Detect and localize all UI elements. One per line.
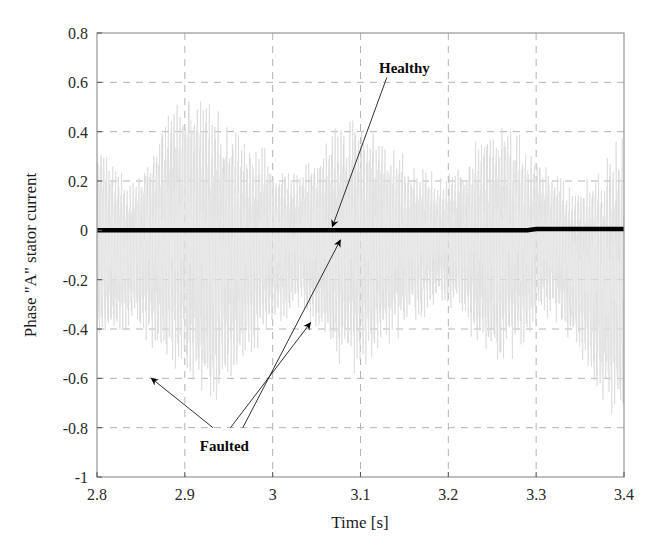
- y-tick-label: 0: [80, 222, 88, 239]
- x-tick-label: 3.3: [526, 486, 546, 503]
- x-tick-label: 3.1: [351, 486, 371, 503]
- x-tick-label: 3: [269, 486, 277, 503]
- x-tick-label: 2.9: [175, 486, 195, 503]
- y-tick-label: -0.4: [63, 321, 88, 338]
- y-tick-label: 0.2: [68, 173, 88, 190]
- annotation-label-faulted: Faulted: [200, 438, 250, 454]
- x-axis-label: Time [s]: [331, 513, 388, 532]
- x-tick-label: 3.4: [614, 486, 634, 503]
- y-tick-label: -0.2: [63, 272, 88, 289]
- annotation-label-healthy: Healthy: [379, 60, 430, 76]
- y-tick-label: -1: [75, 469, 88, 486]
- y-tick-label: 0.4: [68, 124, 88, 141]
- stator-current-plot: 2.82.933.13.23.33.4 0.80.60.40.20-0.2-0.…: [0, 0, 659, 550]
- x-tick-label: 2.8: [87, 486, 107, 503]
- y-tick-label: 0.8: [68, 25, 88, 42]
- y-tick-label: -0.6: [63, 370, 88, 387]
- y-tick-label: -0.8: [63, 420, 88, 437]
- chart-figure: 2.82.933.13.23.33.4 0.80.60.40.20-0.2-0.…: [0, 0, 659, 550]
- y-tick-label: 0.6: [68, 74, 88, 91]
- x-tick-label: 3.2: [438, 486, 458, 503]
- series-healthy: [97, 229, 624, 230]
- y-axis-label: Phase "A" stator current: [21, 172, 40, 337]
